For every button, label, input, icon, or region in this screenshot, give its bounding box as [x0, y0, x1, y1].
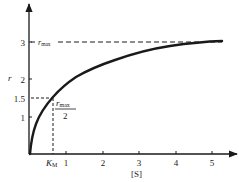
- y-tick-label-1.5: 1.5: [14, 94, 26, 104]
- y-tick-label-3: 3: [21, 38, 26, 48]
- x-tick-label-2: 2: [101, 158, 106, 168]
- half-rmax-label: rmax 2: [55, 98, 76, 121]
- svg-text:rmax: rmax: [56, 98, 70, 108]
- x-tick-label-3: 3: [137, 158, 142, 168]
- svg-text:2: 2: [63, 111, 68, 121]
- y-axis-title: r: [8, 73, 12, 83]
- michaelis-menten-chart: 3 2 1.5 1 r 1 2 3 4 5 KM [S] rmax rmax 2: [0, 0, 239, 182]
- x-axis-title: [S]: [131, 169, 142, 179]
- km-label: KM: [45, 158, 58, 168]
- x-tick-label-1: 1: [64, 158, 69, 168]
- y-tick-label-2: 2: [21, 75, 26, 85]
- x-tick-label-4: 4: [174, 158, 179, 168]
- x-tick-label-5: 5: [210, 158, 215, 168]
- y-tick-label-1: 1: [21, 113, 26, 123]
- rmax-label: rmax: [38, 38, 51, 47]
